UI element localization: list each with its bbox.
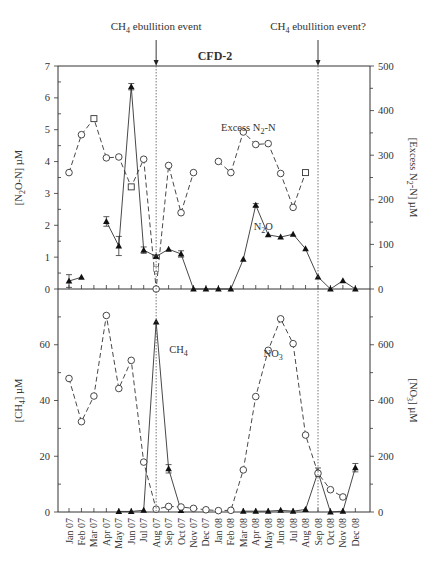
ebullition-event-label: CH4 ebullition event (111, 20, 202, 35)
series-n2o: N2O (66, 83, 359, 291)
series-label: NO3 (264, 348, 283, 362)
circle-marker (290, 340, 297, 347)
x-tick-label: Jun 08 (275, 518, 286, 544)
circle-marker (116, 154, 123, 161)
triangle-marker (252, 202, 259, 208)
right-tick-label: 200 (378, 451, 394, 462)
top-panel-n2o-excess-n2: 012345670100200300400500[N2O-N] µM[Exces… (13, 61, 419, 295)
triangle-marker (240, 508, 247, 514)
circle-marker (290, 204, 297, 211)
x-tick-label: Mar 07 (88, 518, 99, 547)
circle-marker (153, 506, 160, 513)
circle-marker (228, 507, 235, 514)
triangle-marker (128, 83, 135, 89)
circle-marker (340, 494, 347, 501)
left-tick-label: 6 (45, 92, 50, 103)
x-tick-label: Jul 07 (138, 518, 149, 542)
triangle-marker (265, 231, 272, 237)
series-label: CH4 (169, 344, 188, 358)
circle-marker (140, 459, 147, 466)
right-tick-label: 600 (378, 339, 394, 350)
triangle-marker (78, 274, 85, 280)
triangle-marker (140, 247, 147, 253)
left-tick-label: 0 (45, 507, 50, 518)
circle-marker (66, 169, 73, 176)
series-line (69, 315, 343, 510)
circle-marker (215, 507, 222, 514)
triangle-marker (116, 242, 123, 248)
left-tick-label: 5 (45, 124, 50, 135)
right-axis-title: [NO3] µM (405, 378, 419, 423)
chart-canvas: 012345670100200300400500[N2O-N] µM[Exces… (0, 0, 435, 572)
triangle-marker (340, 277, 347, 283)
left-tick-label: 60 (40, 339, 51, 350)
bottom-panel-ch4-no3: 02040600200400600[CH4] µM[NO3] µMCH4NO3 (13, 289, 419, 518)
x-tick-label: May 07 (113, 518, 124, 549)
right-tick-label: 0 (378, 284, 383, 295)
x-tick-label: Dec 07 (200, 518, 211, 547)
circle-marker (240, 467, 247, 474)
left-tick-label: 7 (45, 61, 50, 72)
circle-marker (78, 131, 85, 138)
triangle-marker (302, 506, 309, 512)
x-tick-label: Feb 07 (76, 518, 87, 546)
left-tick-label: 0 (45, 284, 50, 295)
x-tick-label: Nov 07 (188, 518, 199, 548)
arrow-head-icon (154, 60, 159, 66)
x-tick-label: Oct 08 (325, 518, 336, 545)
series-label: Excess N2-N (221, 122, 276, 136)
x-tick-label: Apr 08 (250, 518, 261, 546)
x-tick-label: Aug 08 (300, 518, 311, 548)
chart-title: CFD-2 (198, 49, 233, 63)
arrow-head-icon (316, 60, 321, 66)
circle-marker (103, 155, 110, 162)
left-axis-title: [CH4] µM (13, 378, 27, 422)
circle-marker (103, 312, 110, 319)
x-tick-label: Jan 07 (64, 518, 75, 544)
x-tick-label: Nov 08 (337, 518, 348, 548)
triangle-marker (277, 507, 284, 513)
x-tick-label: Feb 08 (225, 518, 236, 546)
series-ch4: CH4 (116, 318, 359, 514)
circle-marker (78, 418, 85, 425)
series-line (243, 468, 355, 512)
circle-marker (203, 506, 210, 513)
triangle-marker (290, 231, 297, 237)
right-tick-label: 400 (378, 105, 394, 116)
series-no3: NO3 (66, 312, 347, 514)
triangle-marker (352, 464, 359, 470)
triangle-marker (240, 256, 247, 262)
circle-marker (190, 169, 197, 176)
circle-marker (66, 375, 73, 382)
x-axis-month-labels: Jan 07Feb 07Mar 07Apr 07May 07Jun 07Jul … (64, 518, 361, 549)
x-tick-label: Apr 07 (101, 518, 112, 546)
square-marker (128, 184, 134, 190)
circle-marker (252, 393, 259, 400)
triangle-marker (340, 508, 347, 514)
left-tick-label: 1 (45, 252, 50, 263)
triangle-marker (165, 465, 172, 471)
circle-marker (327, 486, 334, 493)
circle-marker (252, 141, 259, 148)
triangle-marker (116, 508, 123, 514)
circle-marker (140, 156, 147, 163)
triangle-marker (103, 218, 110, 224)
triangle-marker (252, 508, 259, 514)
circle-marker (265, 140, 272, 147)
ebullition-event-label: CH4 ebullition event? (270, 20, 366, 35)
circle-marker (228, 169, 235, 176)
dual-panel-time-series-chart: 012345670100200300400500[N2O-N] µM[Exces… (0, 0, 435, 572)
right-tick-label: 500 (378, 61, 394, 72)
left-axis-title: [N2O-N] µM (13, 149, 27, 205)
x-tick-label: Oct 07 (176, 518, 187, 545)
circle-marker (91, 393, 98, 400)
x-tick-label: Jun 07 (126, 518, 137, 544)
circle-marker (165, 162, 172, 169)
x-tick-label: Aug 07 (151, 518, 162, 548)
x-tick-label: Mar 08 (238, 518, 249, 547)
circle-marker (116, 385, 123, 392)
right-tick-label: 400 (378, 395, 394, 406)
series-excess-n2-n: Excess N2-N (66, 116, 309, 293)
circle-marker (190, 505, 197, 512)
circle-marker (128, 357, 135, 364)
